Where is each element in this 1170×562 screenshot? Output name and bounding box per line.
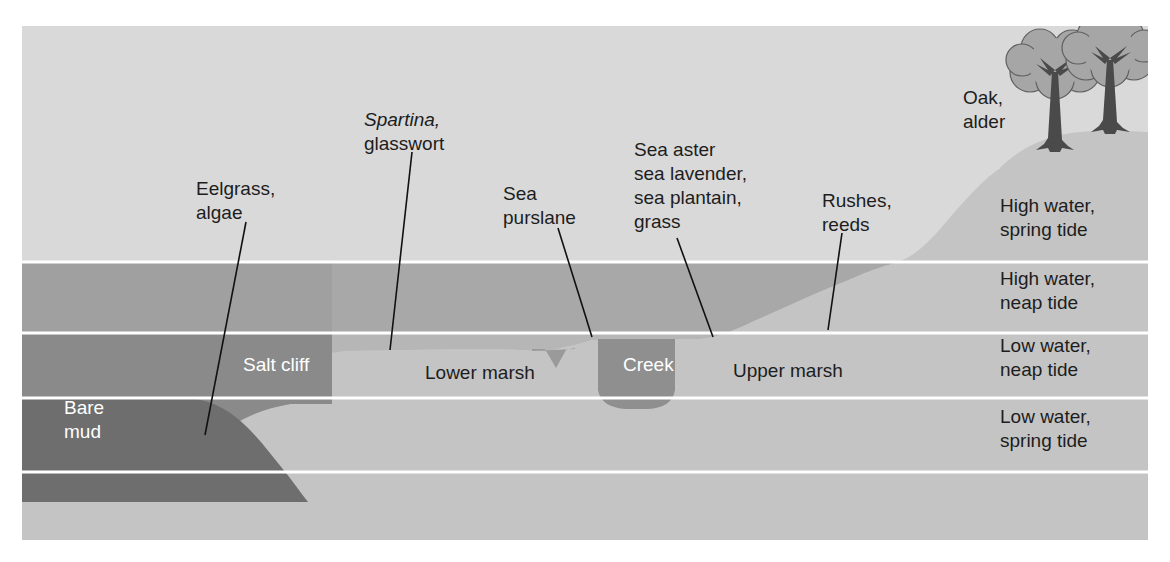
zone-label-bare-mud-line2: mud (64, 421, 101, 442)
callout-sea-aster-group-line4: grass (634, 211, 680, 232)
zone-label-lower-marsh: Lower marsh (425, 362, 535, 383)
tide-label-high-water-spring-tide-line2: spring tide (1000, 219, 1088, 240)
callout-sea-aster-group-line1: Sea aster (634, 139, 716, 160)
callout-rushes-reeds-line1: Rushes, (822, 190, 892, 211)
callout-oak-alder-line2: alder (963, 111, 1006, 132)
tide-label-high-water-neap-tide-line1: High water, (1000, 268, 1095, 289)
tide-label-low-water-neap-tide-line1: Low water, (1000, 335, 1091, 356)
callout-eelgrass-algae-line1: Eelgrass, (196, 178, 275, 199)
zone-label-salt-cliff: Salt cliff (243, 354, 310, 375)
callout-oak-alder-line1: Oak, (963, 87, 1003, 108)
tide-label-low-water-neap-tide-line2: neap tide (1000, 359, 1078, 380)
callout-sea-purslane-line2: purslane (503, 207, 576, 228)
zone-label-upper-marsh: Upper marsh (733, 360, 843, 381)
tide-label-low-water-spring-tide-line1: Low water, (1000, 406, 1091, 427)
tide-label-low-water-spring-tide-line2: spring tide (1000, 430, 1088, 451)
callout-sea-aster-group-line2: sea lavender, (634, 163, 747, 184)
zone-label-bare-mud-line1: Bare (64, 397, 104, 418)
callout-sea-purslane-line1: Sea (503, 183, 537, 204)
salt-marsh-diagram: Eelgrass, algae Spartina, glasswort Sea … (0, 0, 1170, 562)
tide-label-high-water-neap-tide-line2: neap tide (1000, 292, 1078, 313)
tide-label-high-water-spring-tide-line1: High water, (1000, 195, 1095, 216)
callout-spartina-glasswort-line1: Spartina, (364, 109, 440, 130)
diagram-body: Eelgrass, algae Spartina, glasswort Sea … (22, 17, 1160, 540)
callout-spartina-glasswort-line2: glasswort (364, 133, 445, 154)
callout-sea-aster-group-line3: sea plantain, (634, 187, 742, 208)
zone-label-creek: Creek (623, 354, 674, 375)
callout-eelgrass-algae-line2: algae (196, 202, 243, 223)
callout-rushes-reeds-line2: reeds (822, 214, 870, 235)
diagram-canvas: Eelgrass, algae Spartina, glasswort Sea … (0, 0, 1170, 562)
